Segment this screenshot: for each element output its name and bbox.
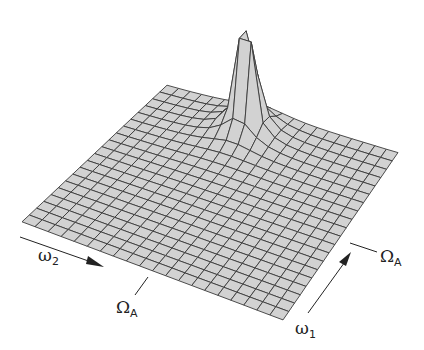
omega1-subscript: 1	[309, 328, 316, 341]
omegaA-right-subscript: A	[394, 256, 402, 269]
omega2-label: ω2	[38, 247, 59, 267]
omegaA-left-tick	[135, 277, 148, 295]
omega2-subscript: 2	[52, 255, 59, 268]
omegaA-left-label: ΩA	[116, 299, 138, 319]
omega1-label: ω1	[295, 320, 316, 340]
omegaA-left-subscript: A	[130, 307, 138, 320]
omegaA-left-symbol: Ω	[116, 297, 130, 317]
omega2-symbol: ω	[38, 245, 52, 265]
omega1-symbol: ω	[295, 318, 309, 338]
surface-plot	[0, 0, 424, 350]
omegaA-right-symbol: Ω	[380, 246, 394, 266]
omegaA-right-tick	[350, 243, 377, 252]
omegaA-right-label: ΩA	[380, 248, 402, 268]
surface-mesh	[22, 31, 398, 320]
